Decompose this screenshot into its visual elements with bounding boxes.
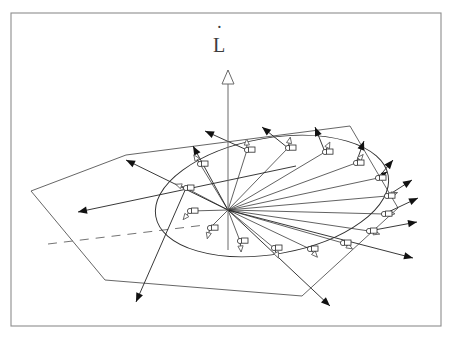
ellipse-node-box-6 (389, 193, 395, 198)
vector-right-low-head (403, 252, 413, 259)
ellipse-node-box-4 (358, 160, 364, 165)
vector-right-b-head (408, 198, 418, 205)
node-tangent-head-3 (325, 142, 330, 149)
radial-ray-6 (228, 196, 387, 210)
axis-label-dot: ˙ (216, 22, 223, 44)
node-tangent-head-14 (183, 213, 189, 219)
vector-right-a-head (402, 180, 412, 188)
node-tangent-head-15 (176, 184, 183, 189)
vector-up-left-long-head (126, 160, 136, 167)
vector-far-left-head (78, 207, 88, 214)
ellipse-node-box-3 (327, 149, 333, 154)
ellipse-curve (146, 118, 399, 273)
cone-base-ellipse (146, 118, 399, 273)
physics-vector-cone-diagram: L ˙ (0, 0, 453, 340)
outer-vector-arrows (78, 127, 418, 306)
vector-down-left-head (136, 292, 143, 302)
figure-root: L ˙ (0, 0, 453, 340)
ellipse-node-box-14 (192, 208, 198, 213)
ellipse-node-box-9 (345, 240, 351, 245)
figure-frame (11, 13, 441, 326)
vector-right-c-head (407, 220, 417, 227)
node-tangent-head-11 (274, 252, 279, 259)
ellipse-node-box-1 (249, 147, 255, 152)
node-tangent-head-13 (206, 232, 211, 238)
radial-ray-2 (228, 148, 288, 210)
axis-arrowhead-open (222, 70, 234, 84)
vector-top-a-head (205, 131, 215, 138)
radial-ray-3 (228, 152, 325, 210)
ellipse-node-box-7 (386, 211, 392, 216)
ellipse-node-box-13 (212, 225, 218, 230)
vector-top-d-head (358, 141, 365, 151)
plane-center-dashed-line (48, 225, 205, 244)
ellipse-node-box-2 (290, 145, 296, 150)
ellipse-node-box-15 (188, 185, 194, 190)
ellipse-node-box-10 (312, 246, 318, 251)
node-tangent-head-12 (238, 246, 243, 252)
ellipse-node-box-5 (380, 175, 386, 180)
node-tangent-head-2 (286, 137, 291, 143)
vector-right-low-shaft (228, 210, 413, 258)
vector-upper-left-head (193, 146, 200, 156)
ellipse-node-box-11 (276, 245, 282, 250)
vertical-axis (222, 70, 234, 250)
ellipse-node-box-16 (202, 161, 208, 166)
ellipse-node-box-8 (371, 228, 377, 233)
vector-top-c-head (315, 127, 322, 137)
vector-top-b-head (262, 127, 271, 135)
ellipse-node-box-12 (242, 238, 248, 243)
